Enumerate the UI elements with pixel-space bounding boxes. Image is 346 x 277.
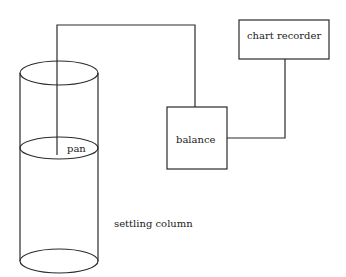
pan-shape [20,137,98,159]
chart-recorder-label: chart recorder [247,30,321,42]
settling-column-label: settling column [114,218,193,230]
settling-column-shape [20,61,98,273]
balance-label: balance [176,134,215,146]
balance-to-recorder-wire [227,59,285,138]
pan-label: pan [67,143,86,155]
apparatus-diagram: chart recorder balance pan settling colu… [0,0,346,277]
pan-to-balance-wire [57,25,195,155]
